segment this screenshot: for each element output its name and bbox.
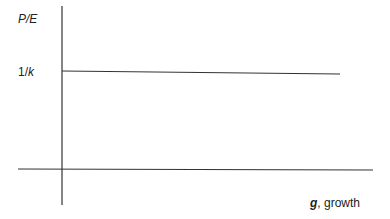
one-over-k-label: 1/k bbox=[18, 65, 34, 79]
x-axis-label: g, growth bbox=[310, 196, 360, 210]
y-axis-label: P/E bbox=[18, 12, 37, 26]
pe-constant-line bbox=[62, 71, 340, 74]
x-axis bbox=[18, 169, 373, 170]
diagram-canvas bbox=[0, 0, 390, 219]
